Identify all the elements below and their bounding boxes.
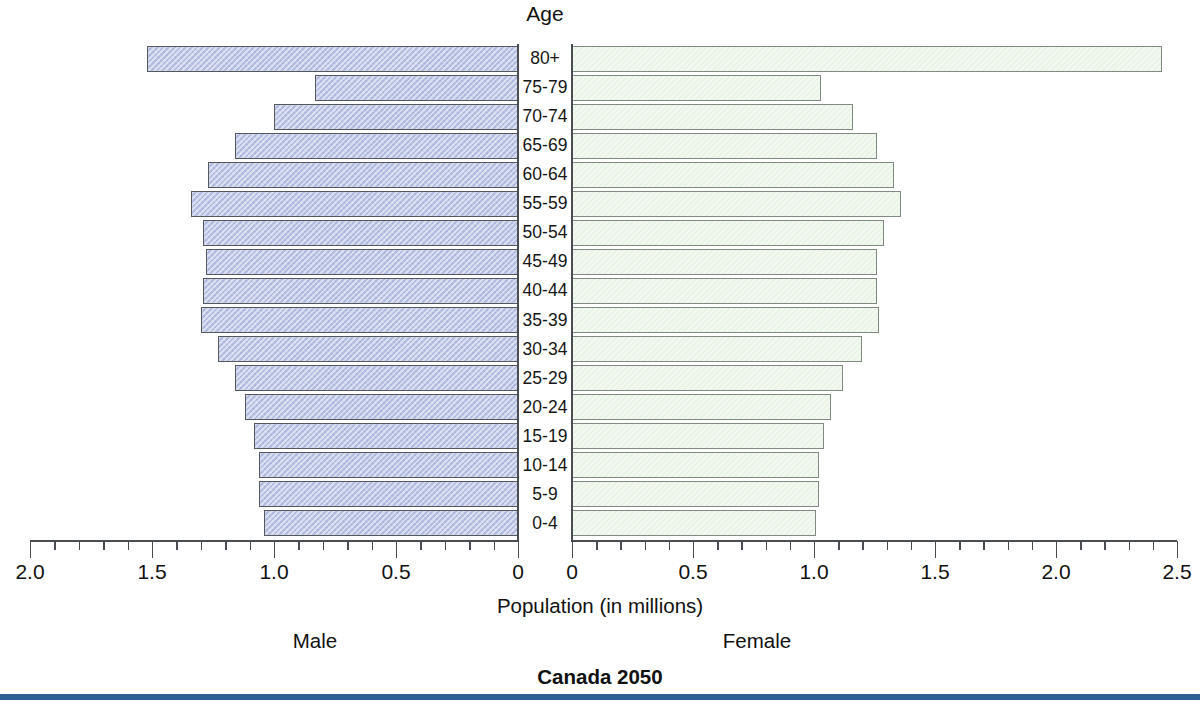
axis-tick-minor <box>838 541 839 550</box>
male-bar <box>147 46 518 72</box>
age-label: 5-9 <box>518 480 572 509</box>
female-bar <box>572 481 819 507</box>
axis-tick-minor <box>717 541 718 550</box>
age-label: 45-49 <box>518 247 572 276</box>
axis-tick-minor <box>79 541 80 550</box>
axis-tick-minor <box>1032 541 1033 550</box>
age-label: 75-79 <box>518 73 572 102</box>
age-label: 70-74 <box>518 102 572 131</box>
axis-tick-minor <box>1153 541 1154 550</box>
male-bar <box>235 365 518 391</box>
male-bar <box>259 452 518 478</box>
male-bar <box>315 75 518 101</box>
axis-tick-minor <box>469 541 470 550</box>
male-bar <box>201 307 518 333</box>
axis-tick-minor <box>128 541 129 550</box>
axis-tick-minor <box>1129 541 1130 550</box>
female-bar <box>572 423 824 449</box>
male-series-label: Male <box>115 629 515 653</box>
male-bar <box>254 423 518 449</box>
female-bar <box>572 104 853 130</box>
age-axis-title: Age <box>498 2 592 26</box>
axis-tick-minor <box>445 541 446 550</box>
axis-tick-major <box>935 541 936 558</box>
female-bar <box>572 46 1162 72</box>
axis-tick-major <box>274 541 275 558</box>
axis-tick-major <box>396 541 397 558</box>
female-bar <box>572 394 831 420</box>
axis-tick-minor <box>766 541 767 550</box>
male-bar <box>235 133 518 159</box>
axis-tick-minor <box>1008 541 1009 550</box>
axis-tick-label: 1.0 <box>784 560 844 584</box>
axis-tick-label: 1.5 <box>122 560 182 584</box>
axis-tick-label: 0.5 <box>663 560 723 584</box>
axis-tick-label: 0.5 <box>366 560 426 584</box>
axis-tick-minor <box>103 541 104 550</box>
axis-tick-minor <box>596 541 597 550</box>
axis-tick-minor <box>250 541 251 550</box>
axis-tick-label: 2.5 <box>1147 560 1200 584</box>
age-label: 50-54 <box>518 218 572 247</box>
axis-tick-minor <box>620 541 621 550</box>
axis-tick-major <box>1177 541 1178 558</box>
population-pyramid-chart: Age 80+75-7970-7465-6960-6455-5950-5445-… <box>0 0 1200 710</box>
male-bar <box>208 162 518 188</box>
axis-tick-major <box>814 541 815 558</box>
chart-title: Canada 2050 <box>400 665 800 689</box>
axis-tick-label: 0 <box>542 560 602 584</box>
age-label: 80+ <box>518 44 572 73</box>
female-bar <box>572 452 819 478</box>
age-label: 65-69 <box>518 131 572 160</box>
male-bar <box>206 249 518 275</box>
axis-tick-major <box>1056 541 1057 558</box>
axis-tick-minor <box>1104 541 1105 550</box>
axis-tick-minor <box>669 541 670 550</box>
age-label: 55-59 <box>518 189 572 218</box>
axis-tick-minor <box>176 541 177 550</box>
age-label: 15-19 <box>518 422 572 451</box>
female-bar <box>572 336 862 362</box>
age-label: 20-24 <box>518 393 572 422</box>
axis-tick-minor <box>54 541 55 550</box>
axis-tick-major <box>572 541 573 558</box>
male-bar <box>274 104 518 130</box>
axis-tick-minor <box>225 541 226 550</box>
axis-tick-minor <box>1080 541 1081 550</box>
age-label: 60-64 <box>518 160 572 189</box>
axis-tick-minor <box>494 541 495 550</box>
male-bar <box>203 220 518 246</box>
population-axis-label: Population (in millions) <box>400 594 800 618</box>
age-label-column: 80+75-7970-7465-6960-6455-5950-5445-4940… <box>518 44 572 538</box>
axis-tick-minor <box>983 541 984 550</box>
axis-tick-minor <box>201 541 202 550</box>
axis-tick-major <box>693 541 694 558</box>
axis-tick-label: 1.0 <box>244 560 304 584</box>
female-bars-panel <box>572 44 1200 538</box>
male-bar <box>218 336 518 362</box>
female-bar <box>572 220 884 246</box>
female-bar <box>572 510 816 536</box>
axis-tick-minor <box>372 541 373 550</box>
female-bar <box>572 365 843 391</box>
axis-tick-label: 2.0 <box>0 560 60 584</box>
axis-tick-major <box>518 541 519 558</box>
axis-tick-minor <box>741 541 742 550</box>
female-bar <box>572 191 901 217</box>
male-bar <box>191 191 518 217</box>
age-label: 30-34 <box>518 335 572 364</box>
axis-tick-minor <box>911 541 912 550</box>
female-series-label: Female <box>557 629 957 653</box>
axis-tick-minor <box>298 541 299 550</box>
female-bar <box>572 162 894 188</box>
axis-tick-minor <box>862 541 863 550</box>
axis-tick-label: 0 <box>488 560 548 584</box>
female-bar <box>572 249 877 275</box>
age-label: 40-44 <box>518 276 572 305</box>
male-bars-panel <box>0 44 518 538</box>
axis-tick-label: 1.5 <box>905 560 965 584</box>
male-bar <box>245 394 518 420</box>
axis-tick-minor <box>323 541 324 550</box>
female-bar <box>572 133 877 159</box>
axis-tick-label: 2.0 <box>1026 560 1086 584</box>
